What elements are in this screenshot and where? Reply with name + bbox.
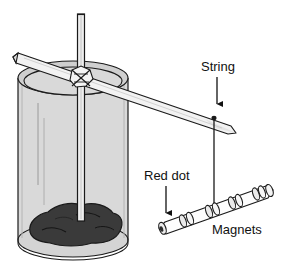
label-magnets-text: Magnets [212,222,262,237]
apparatus-illustration: String Red dot Magnets [0,0,284,279]
diagram-canvas: String Red dot Magnets [0,0,284,279]
label-magnets: Magnets [212,222,262,237]
vertical-support-rod [78,14,85,221]
label-red-dot-text: Red dot [144,168,190,183]
label-string-text: String [201,59,235,74]
string-attachment-knot [211,116,216,120]
